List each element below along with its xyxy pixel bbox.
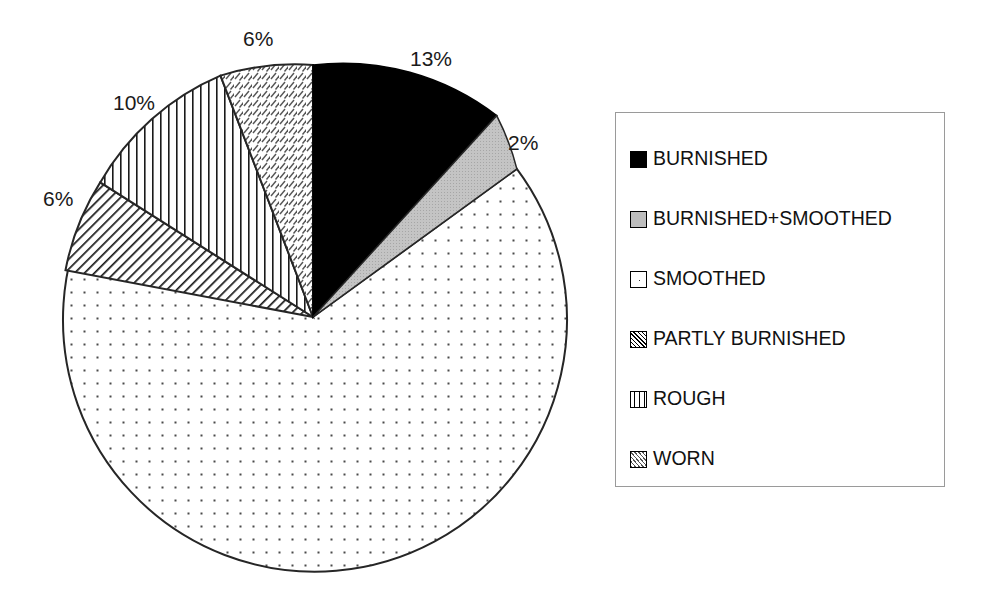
slice-label-rough: 10%	[113, 91, 155, 115]
legend-item-burnished[interactable]: BURNISHED	[630, 129, 944, 189]
slice-label-burnished: 13%	[410, 47, 452, 71]
legend-swatch-burnished-icon	[630, 151, 647, 168]
slice-label-partly-burnished: 6%	[43, 187, 73, 211]
legend-item-partly-burnished[interactable]: PARTLY BURNISHED	[630, 309, 944, 369]
legend-label-rough: ROUGH	[653, 389, 726, 409]
legend-label-smoothed: SMOOTHED	[653, 269, 766, 289]
legend-swatch-worn-icon	[630, 451, 647, 468]
legend-swatch-rough-icon	[630, 391, 647, 408]
chart-legend: BURNISHED BURNISHED+SMOOTHED SMOOTHED PA…	[615, 112, 945, 487]
legend-label-burnished: BURNISHED	[653, 149, 768, 169]
legend-item-list: BURNISHED BURNISHED+SMOOTHED SMOOTHED PA…	[616, 113, 944, 486]
legend-swatch-partly-burnished-icon	[630, 331, 647, 348]
legend-swatch-smoothed-icon	[630, 271, 647, 288]
legend-label-worn: WORN	[653, 449, 715, 469]
legend-item-smoothed[interactable]: SMOOTHED	[630, 249, 944, 309]
legend-item-burnished-smoothed[interactable]: BURNISHED+SMOOTHED	[630, 189, 944, 249]
legend-item-worn[interactable]: WORN	[630, 429, 944, 489]
pie-chart-figure: 13% 2% 6% 10% 6% BURNISHED BURNISHED+SMO…	[0, 0, 993, 601]
slice-label-worn: 6%	[243, 27, 273, 51]
legend-label-burnished-smoothed: BURNISHED+SMOOTHED	[653, 209, 892, 229]
legend-swatch-burnished-smoothed-icon	[630, 211, 647, 228]
legend-item-rough[interactable]: ROUGH	[630, 369, 944, 429]
legend-label-partly-burnished: PARTLY BURNISHED	[653, 329, 846, 349]
slice-label-burnished-smoothed: 2%	[508, 131, 538, 155]
